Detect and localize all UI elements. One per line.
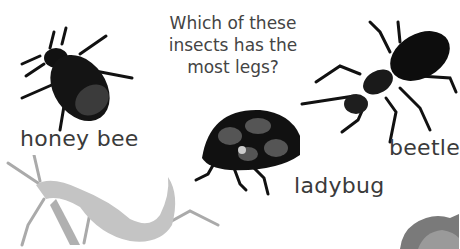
insect-label-ladybug: ladybug: [294, 173, 385, 198]
insect-label-beetle: beetle: [389, 135, 460, 160]
question-line-3: most legs?: [160, 56, 306, 78]
partial-insect-icon: [398, 208, 459, 249]
bee-icon: [10, 14, 140, 134]
beetle-icon: [300, 12, 459, 147]
question-line-2: insects has the: [160, 34, 306, 56]
question-line-1: Which of these: [160, 12, 306, 34]
question-text: Which of these insects has the most legs…: [160, 12, 306, 78]
praying-mantis-icon: [0, 155, 220, 249]
insect-label-honey-bee: honey bee: [20, 126, 139, 151]
